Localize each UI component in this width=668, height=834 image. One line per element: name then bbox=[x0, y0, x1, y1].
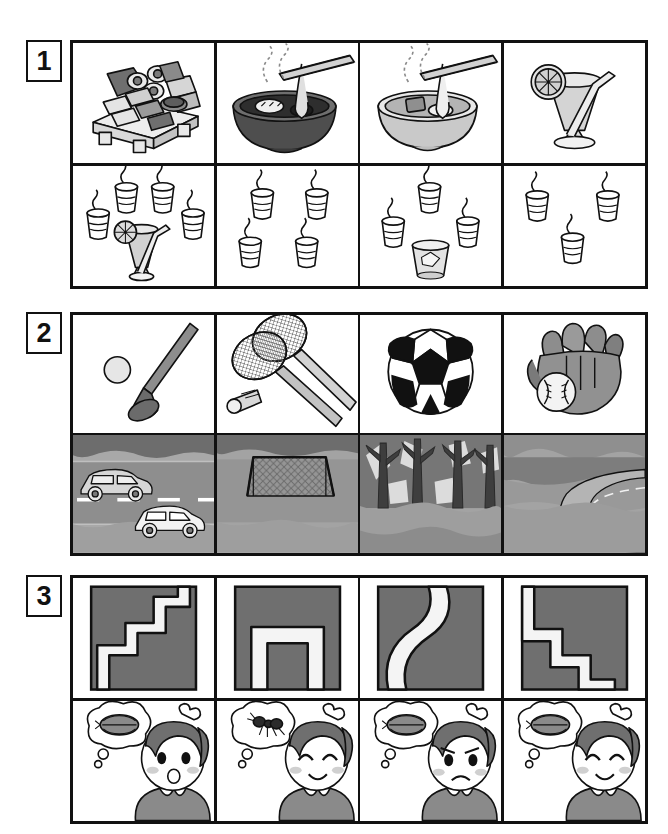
section-1: 1 bbox=[26, 40, 648, 289]
panel-three-teacups[interactable] bbox=[504, 166, 645, 286]
panel-four-teacups-and-juice[interactable] bbox=[73, 166, 214, 286]
panel-girl-happy-ant[interactable] bbox=[217, 701, 358, 821]
panel-ramen-bowl-dark[interactable] bbox=[217, 43, 358, 163]
panel-sushi-platter[interactable] bbox=[73, 43, 214, 163]
section-3: 3 bbox=[26, 575, 648, 824]
panel-lemon-drink-glass[interactable] bbox=[504, 43, 645, 163]
panel-path-zigzag-down[interactable] bbox=[504, 578, 645, 698]
panel-golf-club-and-ball[interactable] bbox=[73, 315, 214, 433]
panel-four-teacups[interactable] bbox=[217, 166, 358, 286]
worksheet-page: 1 bbox=[0, 0, 668, 834]
panel-road-with-cars[interactable] bbox=[73, 435, 214, 553]
panel-winding-road-hills[interactable] bbox=[504, 435, 645, 553]
panel-path-s-curve[interactable] bbox=[360, 578, 501, 698]
panel-grid-2 bbox=[70, 312, 648, 556]
section-number-box: 2 bbox=[26, 312, 62, 354]
panel-path-zigzag-up[interactable] bbox=[73, 578, 214, 698]
section-number-box: 1 bbox=[26, 40, 62, 82]
section-number-box: 3 bbox=[26, 575, 62, 617]
panel-grid-1 bbox=[70, 40, 648, 289]
panel-girl-smiling-pillbug[interactable] bbox=[504, 701, 645, 821]
panel-path-inverted-u[interactable] bbox=[217, 578, 358, 698]
panel-badminton-rackets[interactable] bbox=[217, 315, 358, 433]
panel-girl-surprised-pillbug[interactable] bbox=[73, 701, 214, 821]
panel-girl-sad-pillbug[interactable] bbox=[360, 701, 501, 821]
panel-grid-3 bbox=[70, 575, 648, 824]
panel-three-teacups-and-tumbler[interactable] bbox=[360, 166, 501, 286]
panel-forest-trees[interactable] bbox=[360, 435, 501, 553]
panel-ramen-bowl-light[interactable] bbox=[360, 43, 501, 163]
panel-soccer-ball[interactable] bbox=[360, 315, 501, 433]
section-2: 2 bbox=[26, 312, 648, 556]
panel-baseball-glove[interactable] bbox=[504, 315, 645, 433]
panel-soccer-goal-field[interactable] bbox=[217, 435, 358, 553]
